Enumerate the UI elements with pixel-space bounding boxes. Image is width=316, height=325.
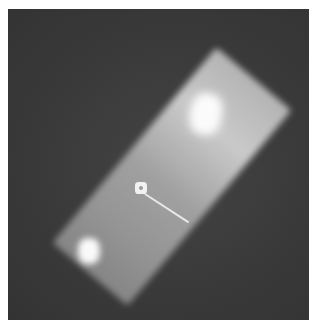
bright-spot-lower (78, 238, 100, 264)
photo-frame (8, 9, 309, 320)
pin-hole (139, 186, 143, 190)
mesh-texture (53, 47, 292, 305)
glowing-plate (53, 47, 292, 305)
